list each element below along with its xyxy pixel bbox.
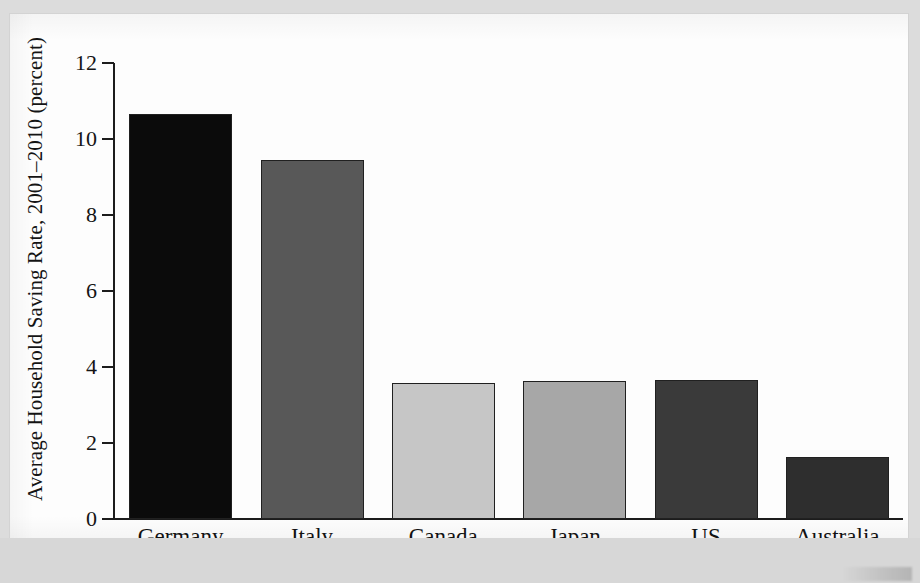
y-tick-6: [102, 290, 114, 292]
y-tick-4: [102, 366, 114, 368]
y-axis-title: Average Household Saving Rate, 2001–2010…: [23, 37, 48, 501]
y-tick-12: [102, 62, 114, 64]
bar-japan: [523, 381, 626, 519]
scan-smudge: [842, 567, 912, 581]
y-tick-10: [102, 138, 114, 140]
y-axis-title-container: Average Household Saving Rate, 2001–2010…: [14, 16, 56, 522]
bar-italy: [261, 160, 364, 519]
figure-container: Average Household Saving Rate, 2001–2010…: [0, 0, 920, 583]
y-tick-2: [102, 442, 114, 444]
bar-australia: [786, 457, 889, 519]
y-tick-label-6: 6: [86, 278, 97, 304]
y-tick-label-10: 10: [75, 126, 97, 152]
bar-series: [115, 63, 903, 519]
plot-area: 024681012: [113, 63, 903, 519]
page-bottom-margin: [0, 538, 920, 583]
y-tick-8: [102, 214, 114, 216]
y-tick-label-0: 0: [86, 506, 97, 532]
y-tick-0: [102, 518, 114, 520]
bar-us: [655, 380, 758, 519]
y-tick-label-4: 4: [86, 354, 97, 380]
y-tick-label-8: 8: [86, 202, 97, 228]
y-tick-label-12: 12: [75, 50, 97, 76]
y-tick-label-2: 2: [86, 430, 97, 456]
bar-canada: [392, 383, 495, 519]
bar-germany: [129, 114, 232, 519]
